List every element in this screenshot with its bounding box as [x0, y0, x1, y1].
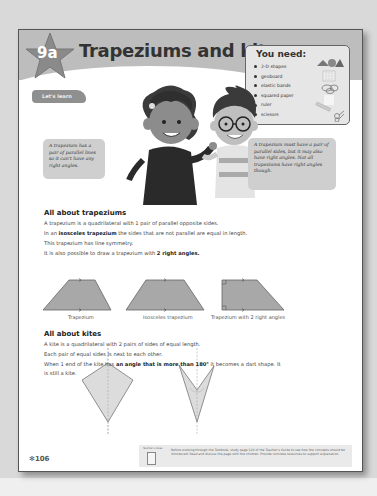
item-label: geoboard [261, 72, 282, 82]
textbook-page: 9a Trapeziums and kites You need: 2-D sh… [18, 29, 363, 472]
paper-icon [324, 95, 334, 105]
scissors-icon [335, 111, 345, 122]
kites-line-1: A kite is a quadrilateral with 2 pairs o… [44, 341, 201, 347]
kites-line-3: When 1 end of the kite has an angle that… [44, 361, 280, 367]
shape-label: Trapezium with 2 right angles [211, 314, 285, 320]
bold-term: an angle that is more than 180° [116, 361, 209, 367]
page-number: ✻106 [29, 455, 50, 463]
chapter-number: 9a [37, 44, 58, 62]
speech-bubble-left: A trapezium has a pair of parallel lines… [43, 139, 105, 179]
girl-character [129, 85, 217, 205]
shape-label: Trapezium [68, 314, 94, 320]
reflex-angle-arc [190, 388, 204, 392]
item-label: 2-D shapes [261, 62, 286, 72]
teacher-notes-text: Before working through the Textbook, stu… [171, 448, 349, 457]
kites-heading: All about kites [44, 330, 101, 338]
text-span: the sides that are not parallel are equa… [117, 230, 248, 236]
characters-illustration [119, 80, 264, 205]
kites-line-4: is still a kite. [44, 370, 77, 376]
text-span: it becomes a dart shape. It [209, 361, 281, 367]
item-label: elastic bands [261, 81, 291, 91]
bold-term: isosceles trapezium [59, 230, 117, 236]
trapeziums-line-4: It is also possible to draw a trapezium … [44, 250, 200, 256]
you-need-title: You need: [256, 49, 306, 59]
text-span: When 1 end of the kite has [44, 361, 116, 367]
text-span: It is also possible to draw a trapezium … [44, 250, 157, 256]
shapes-icon [317, 59, 344, 67]
speech-bubble-right: A trapezium must have a pair of parallel… [248, 138, 336, 190]
isosceles-trapezium-shape [126, 279, 204, 312]
elastic-bands-icon [322, 85, 338, 94]
equipment-icons [315, 58, 345, 122]
shape-label: Isosceles trapezium [143, 314, 193, 320]
background-strip [0, 478, 377, 496]
text-span: In an [44, 230, 59, 236]
teacher-notes-label: Teacher's notes [143, 447, 162, 450]
teacher-notes: Teacher's notes Before working through t… [139, 445, 352, 467]
notes-icon [147, 452, 156, 465]
bullet-icon [254, 75, 257, 78]
item-label: squared paper [261, 91, 294, 101]
bullet-icon [254, 65, 257, 68]
trapeziums-line-1: A trapezium is a quadrilateral with 1 pa… [44, 220, 219, 226]
lets-learn-tab: Let's learn [32, 90, 86, 103]
page-number-value: 106 [35, 455, 50, 463]
trapeziums-line-2: In an isosceles trapezium the sides that… [44, 230, 247, 236]
trapeziums-heading: All about trapeziums [44, 209, 126, 217]
geoboard-icon [323, 71, 335, 81]
list-item: 2-D shapes [254, 62, 294, 72]
kites-line-2: Each pair of equal sides is next to each… [44, 351, 163, 357]
bold-term: 2 right angles. [157, 250, 200, 256]
right-angle-trapezium-shape [222, 279, 284, 312]
trapezium-shape [43, 279, 111, 312]
trapeziums-line-3: This trapezium has line symmetry. [44, 240, 133, 246]
